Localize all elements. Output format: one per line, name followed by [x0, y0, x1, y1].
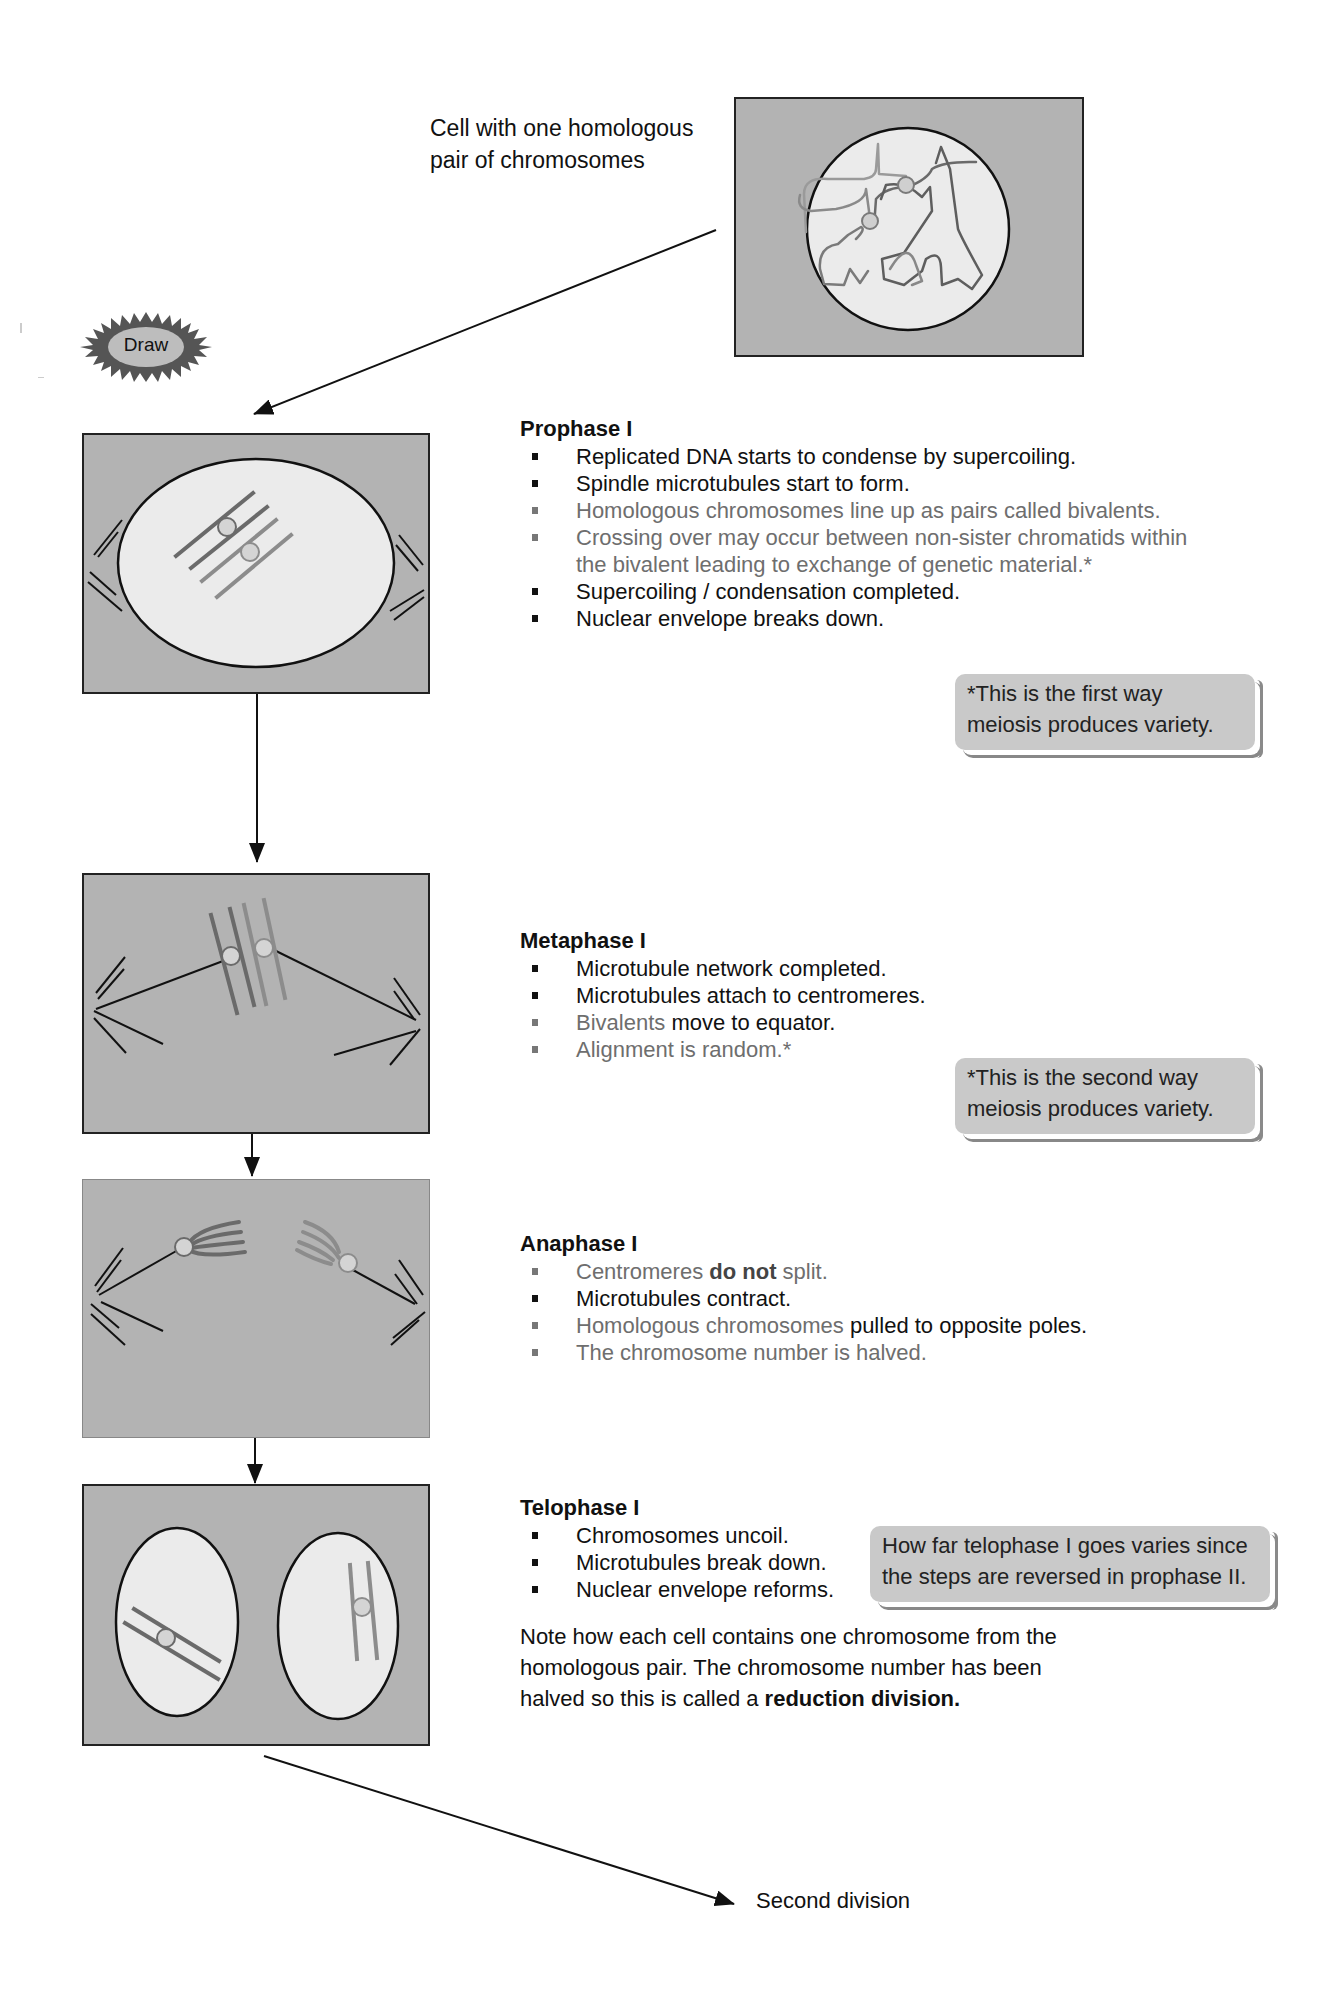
centromere-icon — [255, 939, 273, 957]
draw-badge[interactable]: Draw — [80, 312, 212, 382]
centromere-icon — [175, 1238, 193, 1256]
note-line: the steps are reversed in prophase II. — [882, 1561, 1258, 1592]
centromere-icon — [222, 947, 240, 965]
paragraph-line: Note how each cell contains one chromoso… — [520, 1621, 1160, 1652]
note-line: *This is the second way — [967, 1062, 1243, 1093]
list-item: Bivalents move to equator. — [554, 1009, 1040, 1036]
metaphase-cell-diagram — [82, 873, 430, 1134]
centromere-icon — [898, 177, 914, 193]
centromere-icon — [339, 1254, 357, 1272]
anaphase-title: Anaphase I — [520, 1230, 1140, 1258]
list-item: Centromeres do not split. — [554, 1258, 1140, 1285]
anaphase-list: Centromeres do not split. Microtubules c… — [520, 1258, 1140, 1366]
prophase-cell-diagram — [82, 433, 430, 694]
variety-note-1: *This is the first way meiosis produces … — [955, 674, 1255, 750]
muted-term: Homologous chromosomes — [576, 1313, 844, 1338]
intro-caption-line1: Cell with one homologous — [430, 112, 693, 144]
telophase-title: Telophase I — [520, 1494, 880, 1522]
anaphase-illustration — [83, 1180, 429, 1437]
paragraph-line: halved so this is called a reduction div… — [520, 1683, 1160, 1714]
scan-mark — [38, 377, 44, 378]
dark-text: pulled to opposite poles. — [844, 1313, 1087, 1338]
intro-caption-line2: pair of chromosomes — [430, 144, 693, 176]
anaphase-description: Anaphase I Centromeres do not split. Mic… — [520, 1230, 1140, 1366]
telophase-note: How far telophase I goes varies since th… — [870, 1526, 1270, 1602]
daughter-nucleus-icon — [116, 1528, 238, 1716]
prophase-description: Prophase I Replicated DNA starts to cond… — [520, 415, 1260, 632]
note-line: *This is the first way — [967, 678, 1243, 709]
list-item: The chromosome number is halved. — [554, 1339, 1140, 1366]
list-item: Crossing over may occur between non-sist… — [554, 524, 1260, 578]
variety-note-2: *This is the second way meiosis produces… — [955, 1058, 1255, 1134]
telophase-description: Telophase I Chromosomes uncoil. Microtub… — [520, 1494, 880, 1603]
list-item: Microtubule network completed. — [554, 955, 1040, 982]
muted-term: Bivalents — [576, 1010, 665, 1035]
telophase-illustration — [84, 1486, 428, 1744]
emphasis-text: do not — [709, 1259, 776, 1284]
centromere-icon — [353, 1598, 371, 1616]
intro-caption: Cell with one homologous pair of chromos… — [430, 112, 693, 176]
paragraph-line: homologous pair. The chromosome number h… — [520, 1652, 1160, 1683]
nucleus-icon — [807, 128, 1009, 330]
list-item: Microtubules contract. — [554, 1285, 1140, 1312]
metaphase-illustration — [84, 875, 428, 1132]
telophase-cell-diagram — [82, 1484, 430, 1746]
draw-badge-label: Draw — [80, 334, 212, 356]
centromere-icon — [218, 518, 236, 536]
spindle-icon — [91, 1248, 425, 1345]
note-line: meiosis produces variety. — [967, 709, 1243, 740]
list-item: Homologous chromosomes pulled to opposit… — [554, 1312, 1140, 1339]
list-item: Nuclear envelope breaks down. — [554, 605, 1260, 632]
prophase-list: Replicated DNA starts to condense by sup… — [520, 443, 1260, 632]
centromere-icon — [157, 1629, 175, 1647]
text-fragment: Centromeres — [576, 1259, 709, 1284]
prophase-title: Prophase I — [520, 415, 1260, 443]
scan-mark — [20, 323, 22, 333]
text-fragment: split. — [776, 1259, 827, 1284]
note-line: How far telophase I goes varies since — [882, 1530, 1258, 1561]
note-line: meiosis produces variety. — [967, 1093, 1243, 1124]
daughter-nucleus-icon — [278, 1533, 398, 1719]
text-fragment: halved so this is called a — [520, 1686, 765, 1711]
list-item: Microtubules attach to centromeres. — [554, 982, 1040, 1009]
second-division-label: Second division — [756, 1888, 910, 1914]
list-item: Nuclear envelope reforms. — [554, 1576, 880, 1603]
prophase-illustration — [84, 435, 428, 692]
dark-text: move to equator. — [665, 1010, 835, 1035]
reduction-division-note: Note how each cell contains one chromoso… — [520, 1621, 1160, 1714]
metaphase-description: Metaphase I Microtubule network complete… — [520, 927, 1040, 1063]
anaphase-cell-diagram — [82, 1179, 430, 1438]
intro-cell-diagram — [734, 97, 1084, 357]
list-item: Microtubules break down. — [554, 1549, 880, 1576]
metaphase-title: Metaphase I — [520, 927, 1040, 955]
list-item: Spindle microtubules start to form. — [554, 470, 1260, 497]
emphasis-text: reduction division. — [765, 1686, 961, 1711]
list-item: Chromosomes uncoil. — [554, 1522, 880, 1549]
centromere-icon — [241, 543, 259, 561]
interphase-cell-illustration — [736, 99, 1082, 355]
metaphase-list: Microtubule network completed. Microtubu… — [520, 955, 1040, 1063]
centromere-icon — [862, 213, 878, 229]
list-item: Homologous chromosomes line up as pairs … — [554, 497, 1260, 524]
list-item: Replicated DNA starts to condense by sup… — [554, 443, 1260, 470]
list-item: Supercoiling / condensation completed. — [554, 578, 1260, 605]
telophase-list: Chromosomes uncoil. Microtubules break d… — [520, 1522, 880, 1603]
